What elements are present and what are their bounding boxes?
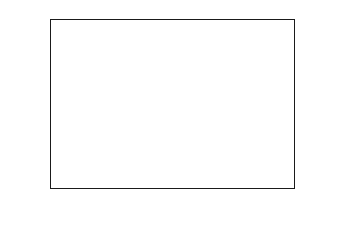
plot-area bbox=[50, 19, 295, 189]
chart-figure bbox=[0, 0, 346, 236]
plot-inner bbox=[51, 20, 294, 188]
